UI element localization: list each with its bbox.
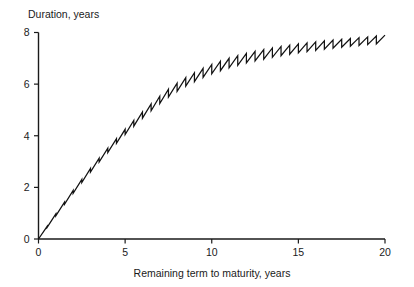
y-tick-label: 2 xyxy=(24,181,30,193)
x-tick-label: 15 xyxy=(293,246,305,258)
x-tick-labels: 05101520 xyxy=(36,246,391,258)
x-tick-label: 10 xyxy=(206,246,218,258)
x-axis-title: Remaining term to maturity, years xyxy=(134,267,291,279)
data-series-group xyxy=(39,35,386,239)
x-tick-label: 0 xyxy=(36,246,42,258)
duration-series-line xyxy=(39,35,386,239)
chart-canvas: 02468 05101520 Duration, years Remaining… xyxy=(0,0,414,287)
y-tick-label: 4 xyxy=(24,130,30,142)
x-tick-label: 5 xyxy=(122,246,128,258)
y-tick-label: 8 xyxy=(24,26,30,38)
y-axis-title: Duration, years xyxy=(28,8,99,20)
y-tick-labels: 02468 xyxy=(24,26,30,245)
x-tick-label: 20 xyxy=(379,246,391,258)
duration-chart: 02468 05101520 Duration, years Remaining… xyxy=(0,0,414,287)
y-tick-label: 6 xyxy=(24,78,30,90)
y-axis-group: 02468 xyxy=(24,26,39,245)
x-axis-group: 05101520 xyxy=(36,239,391,258)
y-tick-label: 0 xyxy=(24,233,30,245)
